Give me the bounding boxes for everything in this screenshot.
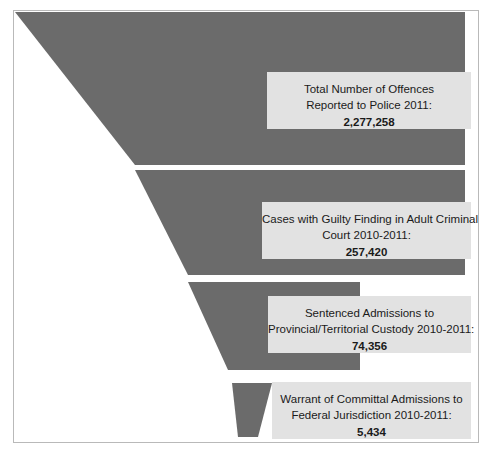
funnel-label-1-value: 2,277,258 bbox=[267, 113, 471, 130]
funnel-chart-figure: Total Number of Offences Reported to Pol… bbox=[0, 0, 492, 458]
funnel-label-1: Total Number of Offences Reported to Pol… bbox=[267, 72, 471, 129]
funnel-label-3-line2: Provincial/Territorial Custody 2010-2011… bbox=[268, 321, 471, 337]
funnel-label-1-line1: Total Number of Offences bbox=[267, 81, 471, 97]
funnel-label-2: Cases with Guilty Finding in Adult Crimi… bbox=[262, 202, 471, 259]
funnel-label-2-value: 257,420 bbox=[262, 243, 471, 260]
funnel-label-3-line1: Sentenced Admissions to bbox=[268, 305, 471, 321]
funnel-label-2-line1: Cases with Guilty Finding in Adult Crimi… bbox=[262, 211, 471, 227]
funnel-label-4-value: 5,434 bbox=[272, 423, 471, 440]
funnel-label-2-line2: Court 2010-2011: bbox=[262, 227, 471, 243]
funnel-segment-4 bbox=[232, 383, 272, 437]
funnel-label-1-line2: Reported to Police 2011: bbox=[267, 97, 471, 113]
funnel-label-4-line2: Federal Jurisdiction 2010-2011: bbox=[272, 407, 471, 423]
funnel-label-4-line1: Warrant of Committal Admissions to bbox=[272, 391, 471, 407]
funnel-label-3-value: 74,356 bbox=[268, 337, 471, 354]
funnel-label-3: Sentenced Admissions to Provincial/Terri… bbox=[268, 296, 471, 353]
funnel-label-4: Warrant of Committal Admissions to Feder… bbox=[272, 382, 471, 439]
